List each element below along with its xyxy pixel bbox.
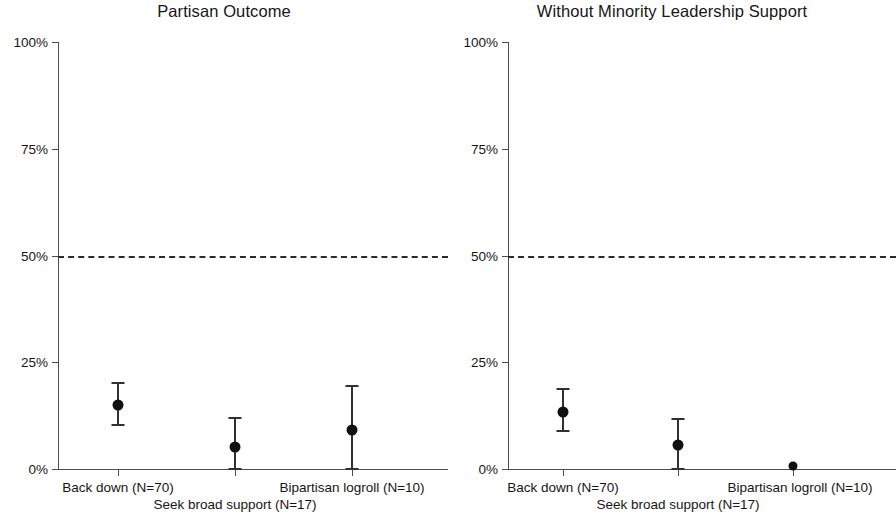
x-axis-line — [508, 469, 896, 470]
y-tick-label-100: 100% — [0, 35, 48, 50]
error-bar-cap-upper — [672, 418, 685, 420]
x-axis-line — [58, 469, 448, 470]
y-tick-75 — [52, 149, 58, 150]
error-bar-cap-lower — [229, 468, 242, 470]
error-bar-cap-upper — [346, 385, 359, 387]
x-tick-1 — [563, 470, 564, 476]
x-tick-label-bipartisan-logroll: Bipartisan logroll (N=10) — [727, 480, 872, 495]
data-point-marker — [113, 400, 124, 411]
y-tick-label-100: 100% — [448, 35, 498, 50]
y-tick-100 — [502, 42, 508, 43]
data-point-marker — [230, 442, 241, 453]
x-tick-label-back-down: Back down (N=70) — [62, 480, 173, 495]
x-tick-2 — [678, 470, 679, 476]
y-tick-label-0: 0% — [448, 462, 498, 477]
y-tick-label-75: 75% — [0, 142, 48, 157]
figure-container: Partisan Outcome 100% 75% 50% 25% 0% Bac… — [0, 0, 896, 526]
y-tick-label-25: 25% — [0, 355, 48, 370]
reference-line-50 — [58, 256, 448, 258]
data-point-marker — [558, 407, 569, 418]
panel-without-minority-leadership-support: Without Minority Leadership Support 100%… — [448, 0, 896, 526]
x-tick-label-seek-broad-support: Seek broad support (N=17) — [596, 497, 759, 512]
error-bar-cap-lower — [672, 468, 685, 470]
x-tick-label-bipartisan-logroll: Bipartisan logroll (N=10) — [279, 480, 424, 495]
error-bar-cap-upper — [557, 388, 570, 390]
y-tick-0 — [502, 469, 508, 470]
x-tick-3 — [352, 470, 353, 476]
x-tick-label-seek-broad-support: Seek broad support (N=17) — [153, 497, 316, 512]
y-tick-25 — [52, 362, 58, 363]
x-tick-2 — [235, 470, 236, 476]
error-bar-cap-upper — [229, 417, 242, 419]
x-tick-1 — [118, 470, 119, 476]
y-tick-label-50: 50% — [0, 249, 48, 264]
data-point-marker — [789, 462, 798, 471]
x-tick-3 — [793, 470, 794, 476]
panel-partisan-outcome: Partisan Outcome 100% 75% 50% 25% 0% Bac… — [0, 0, 448, 526]
error-bar-cap-lower — [557, 430, 570, 432]
error-bar-cap-upper — [112, 382, 125, 384]
y-tick-100 — [52, 42, 58, 43]
panel-title: Partisan Outcome — [0, 2, 448, 21]
y-tick-label-75: 75% — [448, 142, 498, 157]
y-tick-label-0: 0% — [0, 462, 48, 477]
data-point-marker — [673, 440, 684, 451]
panel-title: Without Minority Leadership Support — [448, 2, 896, 21]
data-point-marker — [347, 425, 358, 436]
error-bar-cap-lower — [112, 424, 125, 426]
y-tick-label-50: 50% — [448, 249, 498, 264]
y-tick-0 — [52, 469, 58, 470]
y-tick-75 — [502, 149, 508, 150]
reference-line-50 — [508, 256, 896, 258]
error-bar-cap-lower — [346, 468, 359, 470]
y-tick-label-25: 25% — [448, 355, 498, 370]
y-tick-25 — [502, 362, 508, 363]
x-tick-label-back-down: Back down (N=70) — [507, 480, 618, 495]
